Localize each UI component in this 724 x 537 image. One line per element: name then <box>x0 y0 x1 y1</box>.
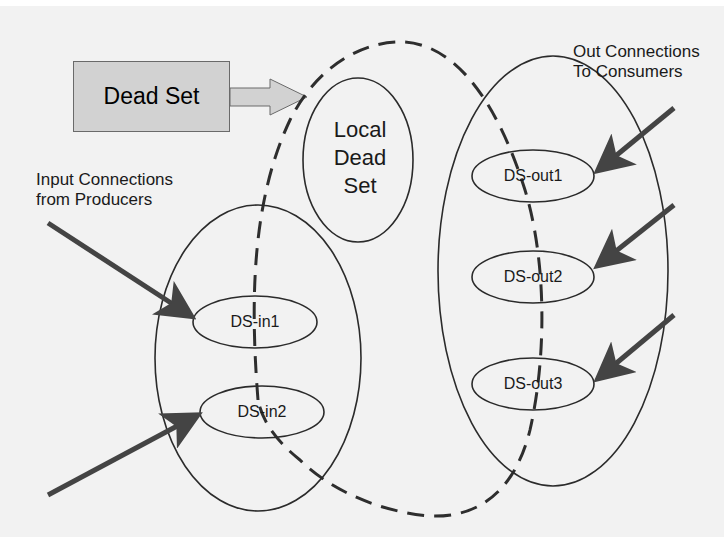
dashed-boundary-oval <box>254 42 542 516</box>
input-arrow-2 <box>48 417 194 495</box>
dead-set-block-arrow <box>230 79 307 115</box>
ds-out2-label: DS-out2 <box>504 268 563 286</box>
dead-set-diagram: Dead Set Local Dead Set Input Connection… <box>0 0 724 537</box>
output-arrow-1 <box>601 108 674 168</box>
dead-set-label: Dead Set <box>104 83 200 110</box>
output-annotation-line-2: To Consumers <box>573 62 700 82</box>
input-arrow-1 <box>48 223 188 314</box>
local-dead-set-line-1: Local <box>334 116 387 144</box>
local-dead-set-label: Local Dead Set <box>334 116 387 200</box>
output-arrow-3 <box>601 315 674 376</box>
ds-in2-label: DS-in2 <box>238 403 287 421</box>
dead-set-box: Dead Set <box>73 61 230 132</box>
ds-in1-label: DS-in1 <box>231 313 280 331</box>
output-arrow-2 <box>601 205 674 263</box>
local-dead-set-line-3: Set <box>334 172 387 200</box>
ds-out1-label: DS-out1 <box>504 167 563 185</box>
input-annotation-line-2: from Producers <box>36 190 173 210</box>
input-annotation-line-1: Input Connections <box>36 170 173 190</box>
local-dead-set-line-2: Dead <box>334 144 387 172</box>
output-annotation-line-1: Out Connections <box>573 42 700 62</box>
input-connections-annotation: Input Connections from Producers <box>36 170 173 209</box>
output-connections-annotation: Out Connections To Consumers <box>573 42 700 81</box>
ds-out3-label: DS-out3 <box>504 375 563 393</box>
